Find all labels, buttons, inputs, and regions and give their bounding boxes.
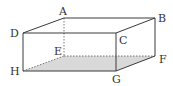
label-f: F <box>159 53 167 66</box>
label-e: E <box>54 45 62 58</box>
label-h: H <box>10 65 20 78</box>
edge-bc <box>116 18 155 33</box>
label-g: G <box>112 73 121 86</box>
label-c: C <box>119 34 127 47</box>
cuboid-diagram: A B C D E F G H <box>0 0 173 86</box>
label-a: A <box>58 5 68 18</box>
label-d: D <box>10 27 19 40</box>
edge-da <box>23 18 64 33</box>
label-b: B <box>158 12 166 25</box>
